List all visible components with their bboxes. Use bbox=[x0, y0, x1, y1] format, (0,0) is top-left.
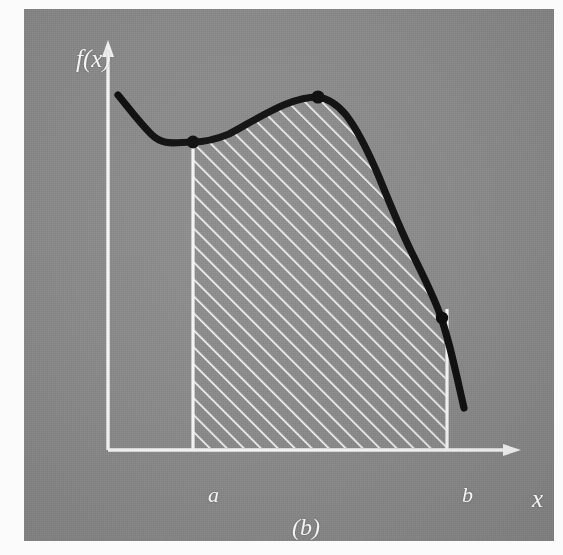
point-marker-at-b bbox=[436, 312, 448, 324]
x-axis-label: x bbox=[532, 485, 543, 513]
tick-label-a: a bbox=[208, 482, 219, 508]
y-axis bbox=[102, 40, 114, 450]
tick-label-b: b bbox=[462, 482, 473, 508]
figure-caption: (b) bbox=[292, 514, 320, 541]
right-arrow-icon bbox=[503, 444, 521, 456]
plot-canvas bbox=[24, 9, 554, 541]
y-axis-label: f(x) bbox=[76, 45, 111, 73]
figure-panel: f(x) x a b (b) bbox=[24, 9, 554, 541]
point-marker-at-a bbox=[187, 136, 200, 149]
point-marker-local-maximum bbox=[311, 90, 324, 103]
figure-page: f(x) x a b (b) bbox=[0, 0, 563, 555]
